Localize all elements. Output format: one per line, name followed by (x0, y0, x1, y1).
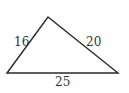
side-label-right: 20 (86, 35, 101, 49)
triangle-diagram: 16 20 25 (0, 0, 129, 93)
side-label-left: 16 (14, 35, 29, 49)
side-label-bottom: 25 (55, 75, 70, 89)
